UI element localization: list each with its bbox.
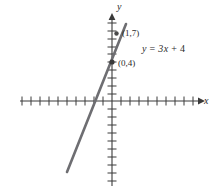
point-label-0-4: (0,4) <box>118 58 135 68</box>
equation-intercept: 4 <box>180 43 185 54</box>
coordinate-plane-svg <box>0 0 216 194</box>
y-axis-group <box>108 13 117 186</box>
x-axis-label: x <box>204 95 208 106</box>
point-marker-1-7 <box>114 31 118 35</box>
y-axis-label: y <box>117 1 121 12</box>
equation-equals: = <box>150 43 156 54</box>
equation-plus: + <box>171 43 177 54</box>
graph-figure: y x (1,7) (0,4) y = 3x + 4 <box>0 0 216 194</box>
point-label-1-7: (1,7) <box>122 28 139 38</box>
equation-lhs: y <box>142 43 147 54</box>
equation-slope-term: 3x <box>158 43 168 54</box>
equation-annotation: y = 3x + 4 <box>142 43 185 54</box>
point-marker-0-4 <box>109 59 114 64</box>
y-axis-arrowhead <box>109 13 116 20</box>
